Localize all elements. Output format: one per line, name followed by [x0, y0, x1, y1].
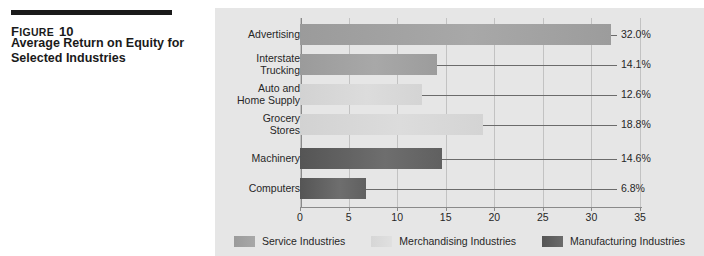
chart-legend: Service IndustriesMerchandising Industri…	[215, 230, 704, 252]
legend-item[interactable]: Manufacturing Industries	[542, 235, 685, 247]
category-label: Auto andHome Supply	[190, 83, 300, 106]
category-label-line: Trucking	[190, 65, 300, 77]
caption-rule	[11, 10, 172, 15]
category-label: Advertising	[190, 29, 300, 41]
x-axis-tick-label: 30	[586, 211, 598, 223]
legend-label: Service Industries	[262, 235, 345, 247]
x-axis-tick-label: 5	[346, 211, 352, 223]
figure-caption-block: FIGURE10 Average Return on Equity for Se…	[0, 0, 215, 256]
x-axis-tick-label: 15	[440, 211, 452, 223]
value-leader-line	[442, 159, 617, 160]
bar-value-label: 14.1%	[621, 58, 651, 70]
category-label-line: Stores	[190, 125, 300, 137]
legend-item[interactable]: Merchandising Industries	[371, 235, 516, 247]
category-label: Machinery	[190, 153, 300, 165]
category-label: Computers	[190, 183, 300, 195]
value-leader-line	[437, 65, 617, 66]
bar[interactable]	[300, 148, 442, 169]
category-label: InterstateTrucking	[190, 53, 300, 76]
legend-label: Merchandising Industries	[399, 235, 516, 247]
x-axis-tick-label: 25	[537, 211, 549, 223]
legend-item[interactable]: Service Industries	[234, 235, 345, 247]
plot-wrapper: 0510152025303532.0%Advertising14.1%Inter…	[215, 8, 704, 218]
gridline	[640, 18, 641, 208]
bar-value-label: 18.8%	[621, 118, 651, 130]
bar-value-label: 32.0%	[621, 28, 651, 40]
category-label-line: Machinery	[190, 153, 300, 165]
gridline	[397, 18, 398, 208]
category-label-line: Advertising	[190, 29, 300, 41]
gridline	[543, 18, 544, 208]
bar[interactable]	[300, 114, 483, 135]
figure-title: Average Return on Equity for Selected In…	[11, 36, 207, 66]
x-axis-tick-label: 10	[391, 211, 403, 223]
value-leader-line	[611, 35, 617, 36]
gridline	[591, 18, 592, 208]
category-label-line: Computers	[190, 183, 300, 195]
bar[interactable]	[300, 178, 366, 199]
bar-value-label: 6.8%	[621, 182, 645, 194]
legend-label: Manufacturing Industries	[570, 235, 685, 247]
bar-value-label: 14.6%	[621, 152, 651, 164]
category-label-line: Grocery	[190, 113, 300, 125]
category-label-line: Home Supply	[190, 95, 300, 107]
bar[interactable]	[300, 54, 437, 75]
bar-value-label: 12.6%	[621, 88, 651, 100]
x-axis-tick-label: 0	[297, 211, 303, 223]
value-leader-line	[366, 189, 617, 190]
bar[interactable]	[300, 84, 422, 105]
gridline	[446, 18, 447, 208]
x-axis-tick-label: 20	[488, 211, 500, 223]
category-label-line: Interstate	[190, 53, 300, 65]
value-leader-line	[483, 125, 617, 126]
legend-swatch-icon	[542, 236, 563, 247]
x-axis-tick-label: 35	[634, 211, 646, 223]
gridline	[494, 18, 495, 208]
category-label-line: Auto and	[190, 83, 300, 95]
legend-swatch-icon	[234, 236, 255, 247]
chart-panel: 0510152025303532.0%Advertising14.1%Inter…	[215, 8, 704, 256]
legend-swatch-icon	[371, 236, 392, 247]
category-label: GroceryStores	[190, 113, 300, 136]
value-leader-line	[422, 95, 617, 96]
bar[interactable]	[300, 24, 611, 45]
